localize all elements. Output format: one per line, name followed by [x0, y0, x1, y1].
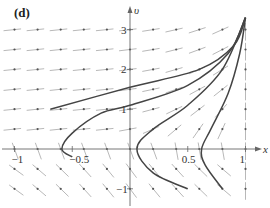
- field-arrow: [142, 107, 159, 112]
- field-arrow: [142, 48, 159, 51]
- field-arrow: [4, 29, 22, 31]
- field-arrow: [195, 184, 208, 196]
- field-arrow: [4, 68, 22, 70]
- y-tick-label: 1: [121, 103, 127, 115]
- y-tick-label: −1: [116, 183, 128, 195]
- field-arrow: [244, 182, 246, 200]
- field-arrow: [119, 128, 136, 131]
- field-arrow: [142, 88, 159, 92]
- field-arrow: [50, 48, 68, 50]
- field-arrow: [27, 108, 45, 110]
- field-arrow: [166, 48, 183, 52]
- field-arrow: [166, 106, 182, 114]
- field-arrow: [217, 185, 230, 196]
- field-arrow: [56, 164, 69, 176]
- field-arrow: [96, 29, 114, 31]
- field-arrow: [73, 68, 91, 70]
- field-arrow: [33, 185, 46, 196]
- field-arrow: [175, 143, 178, 160]
- field-arrow: [244, 103, 246, 121]
- field-arrow: [168, 125, 181, 136]
- field-arrow: [27, 88, 45, 90]
- field-arrow: [96, 88, 114, 90]
- field-arrow: [218, 123, 225, 139]
- field-arrow: [165, 28, 182, 32]
- field-arrow: [166, 87, 183, 93]
- field-arrow: [96, 48, 114, 50]
- field-arrow: [119, 48, 136, 50]
- field-arrow: [189, 28, 206, 33]
- x-tick-label: −0.5: [69, 153, 89, 165]
- field-arrow: [221, 143, 224, 160]
- field-arrow: [244, 63, 246, 81]
- field-arrow: [4, 88, 22, 90]
- field-arrow: [142, 29, 159, 32]
- field-arrow: [73, 48, 91, 50]
- field-arrow: [244, 83, 246, 101]
- field-arrow: [190, 86, 205, 94]
- field-arrow: [79, 184, 91, 197]
- field-arrow: [217, 165, 230, 176]
- field-arrow: [79, 164, 91, 177]
- field-arrow: [214, 85, 228, 96]
- field-arrow: [33, 165, 46, 176]
- field-arrow: [151, 143, 157, 160]
- x-tick-label: 1: [240, 153, 246, 165]
- field-arrow: [193, 124, 203, 138]
- field-arrow: [27, 68, 45, 70]
- x-tick-label: 0.5: [182, 153, 196, 165]
- field-arrow: [27, 48, 45, 50]
- field-arrow: [9, 165, 23, 175]
- field-arrow: [105, 143, 111, 160]
- field-arrow: [128, 143, 134, 160]
- field-arrow: [4, 48, 22, 50]
- field-arrow: [50, 88, 68, 90]
- field-arrow: [73, 88, 91, 90]
- field-arrow: [9, 185, 23, 195]
- y-axis-arrow-icon: [128, 6, 133, 13]
- field-arrow: [189, 47, 206, 53]
- axis-ticks: −1−0.50.51−1123: [12, 24, 246, 195]
- trajectory-1: [50, 18, 245, 110]
- field-arrow: [27, 128, 45, 130]
- field-arrow: [244, 43, 246, 61]
- field-arrow: [4, 108, 22, 110]
- field-arrow: [103, 164, 114, 178]
- trajectory-2: [62, 18, 246, 157]
- field-arrow: [172, 164, 184, 177]
- field-arrow: [126, 164, 137, 178]
- field-arrow: [56, 184, 69, 196]
- field-arrow: [149, 184, 160, 198]
- field-arrow: [35, 143, 41, 160]
- field-arrow: [244, 123, 246, 141]
- panel-label: (d): [14, 5, 30, 20]
- field-arrow: [50, 29, 68, 31]
- field-arrow: [96, 68, 114, 70]
- field-arrow: [142, 68, 159, 71]
- field-arrow: [96, 128, 114, 130]
- x-axis-arrow-icon: [255, 147, 262, 152]
- x-axis-label: x: [262, 143, 268, 155]
- x-tick-label: −1: [12, 153, 24, 165]
- field-arrow: [27, 29, 45, 31]
- field-arrow: [50, 68, 68, 70]
- field-arrow: [166, 68, 183, 73]
- y-tick-label: 2: [121, 63, 127, 75]
- y-axis-label: υ: [134, 4, 139, 16]
- field-arrow: [212, 27, 228, 34]
- y-tick-label: 3: [121, 24, 127, 36]
- field-arrow: [50, 128, 68, 130]
- phase-plot: −1−0.50.51−1123 (d) x υ: [0, 0, 270, 208]
- field-arrow: [191, 105, 205, 116]
- field-arrow: [73, 29, 91, 31]
- field-arrow: [103, 184, 114, 198]
- field-arrow: [73, 108, 91, 110]
- field-arrow: [4, 128, 22, 130]
